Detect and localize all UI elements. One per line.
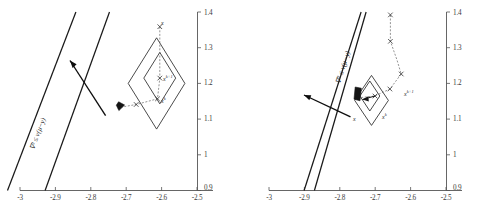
x-tick-label: -2.5 bbox=[441, 194, 452, 202]
x-tick-label: -2.5 bbox=[192, 194, 203, 202]
y-tick-label: 1 bbox=[453, 151, 456, 159]
iterate-label-x: x bbox=[161, 20, 164, 26]
constraint-line-2 bbox=[45, 12, 109, 191]
y-tick-label: 1.4 bbox=[453, 9, 461, 17]
iterate-markers bbox=[373, 13, 404, 99]
iterate-label-xk1: xk+1 bbox=[163, 74, 173, 82]
x-tick-label: -2.7 bbox=[370, 194, 381, 202]
constraint-line-1 bbox=[8, 12, 76, 191]
x-tick-label: -2.9 bbox=[50, 194, 61, 202]
x-tick-label: -2.7 bbox=[121, 194, 132, 202]
plot-canvas-left bbox=[0, 0, 249, 212]
iterate-label-xk: xk bbox=[161, 96, 166, 104]
y-tick-label: 0.9 bbox=[453, 184, 461, 192]
iterate-label-x: x bbox=[353, 116, 356, 122]
iterate-label-xk1: xk+1 bbox=[404, 89, 414, 97]
inner-trust-region bbox=[360, 81, 380, 111]
x-tick-label: -2.8 bbox=[335, 194, 346, 202]
x-axis-ticks bbox=[269, 187, 446, 191]
x-tick-label: -2.9 bbox=[299, 194, 310, 202]
iterate-label-xk: xk bbox=[382, 112, 387, 120]
x-tick-label: -2.6 bbox=[156, 194, 167, 202]
y-tick-label: 1.3 bbox=[204, 44, 212, 52]
x-tick-label: -3 bbox=[266, 194, 272, 202]
x-tick-label: -2.6 bbox=[405, 194, 416, 202]
y-tick-label: 1.3 bbox=[453, 44, 461, 52]
figure-root: -3 -2.9 -2.8 -2.7 -2.6 -2.5 0.9 1 1.1 1.… bbox=[0, 0, 498, 212]
y-axis-ticks bbox=[198, 12, 202, 191]
y-tick-label: 1.2 bbox=[453, 79, 461, 87]
constraint-line-1 bbox=[304, 12, 361, 191]
outer-trust-region bbox=[128, 38, 185, 129]
panel-left: -3 -2.9 -2.8 -2.7 -2.6 -2.5 0.9 1 1.1 1.… bbox=[0, 0, 249, 212]
solution-point bbox=[354, 87, 361, 101]
solution-point bbox=[116, 102, 124, 111]
x-tick-label: -3 bbox=[17, 194, 23, 202]
iterate-markers bbox=[134, 24, 162, 106]
y-axis-ticks bbox=[447, 12, 451, 191]
y-tick-label: 1.1 bbox=[204, 115, 212, 123]
x-tick-label: -2.8 bbox=[86, 194, 97, 202]
plot-canvas-right bbox=[249, 0, 498, 212]
y-tick-label: 1 bbox=[204, 151, 207, 159]
panel-right: -3 -2.9 -2.8 -2.7 -2.6 -2.5 0.9 1 1.1 1.… bbox=[249, 0, 498, 212]
y-tick-label: 1.4 bbox=[204, 9, 212, 17]
constraint-line-2 bbox=[314, 12, 366, 191]
y-tick-label: 0.9 bbox=[204, 184, 212, 192]
y-tick-label: 1.1 bbox=[453, 115, 461, 123]
y-tick-label: 1.2 bbox=[204, 79, 212, 87]
constraint-pointer-arrow bbox=[304, 95, 351, 117]
